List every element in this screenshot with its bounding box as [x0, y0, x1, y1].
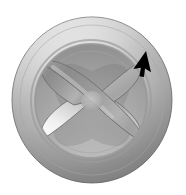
screenshot-canvas [0, 0, 186, 195]
blade-center-hub [81, 91, 103, 111]
rendered-object-scene [0, 0, 186, 195]
